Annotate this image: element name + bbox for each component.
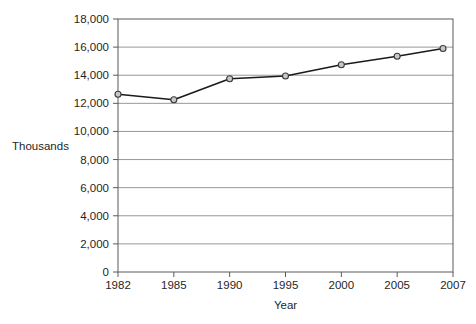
chart-figure: 02,0004,0006,0008,00010,00012,00014,0001… (0, 0, 476, 324)
y-tick-label: 4,000 (80, 210, 109, 222)
y-axis-title: Thousands (12, 139, 69, 153)
y-tick-label: 0 (103, 266, 109, 278)
y-tick-label: 8,000 (80, 154, 109, 166)
data-point-marker (171, 97, 177, 103)
data-point-marker (338, 62, 344, 68)
x-tick-label: 2000 (329, 279, 355, 291)
y-tick-label: 12,000 (74, 97, 109, 109)
chart-canvas: 02,0004,0006,0008,00010,00012,00014,0001… (0, 0, 476, 324)
y-tick-label: 10,000 (74, 125, 109, 137)
x-tick-label: 1982 (105, 279, 131, 291)
x-tick-label: 1990 (217, 279, 243, 291)
data-point-marker (283, 73, 289, 79)
y-tick-label: 2,000 (80, 238, 109, 250)
y-tick-label: 18,000 (74, 13, 109, 25)
y-tick-label: 14,000 (74, 69, 109, 81)
x-axis-title: Year (118, 298, 453, 312)
x-tick-label: 1985 (161, 279, 187, 291)
y-tick-label: 6,000 (80, 182, 109, 194)
data-point-marker (115, 91, 121, 97)
x-tick-label: 2005 (384, 279, 410, 291)
y-tick-label: 16,000 (74, 41, 109, 53)
data-point-marker (440, 46, 446, 52)
plot-border (118, 19, 453, 272)
x-tick-label: 1995 (273, 279, 299, 291)
data-point-marker (394, 53, 400, 59)
data-point-marker (227, 76, 233, 82)
x-tick-label: 2007 (440, 279, 466, 291)
